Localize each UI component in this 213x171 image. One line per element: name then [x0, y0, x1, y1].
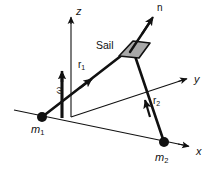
y-axis-label: y [194, 74, 200, 85]
r1-label: r1 [78, 60, 85, 70]
mass-2-label-subscript: 2 [164, 156, 168, 165]
x-axis-label: x [196, 146, 202, 157]
mass-1-label-base: m [31, 123, 40, 135]
physics-diagram-figure: z y x n ω r1 r2 Sail m1 m2 [0, 0, 213, 171]
y-axis [71, 79, 187, 117]
z-axis-label: z [76, 6, 82, 17]
diagram-canvas [0, 0, 213, 171]
mass-1-label: m1 [31, 124, 44, 135]
r2-label: r2 [153, 96, 160, 106]
angular-velocity-label: ω [55, 87, 64, 94]
sail-label: Sail [96, 40, 114, 51]
normal-vector-label: n [157, 3, 163, 13]
mass-1-label-subscript: 1 [40, 128, 44, 137]
mass-2-dot [159, 137, 169, 147]
r1-label-subscript: 1 [81, 64, 85, 71]
r2-label-subscript: 2 [156, 100, 160, 107]
mass-1-dot [37, 112, 47, 122]
mass-2-label-base: m [155, 151, 164, 163]
mass-2-label: m2 [155, 152, 168, 163]
